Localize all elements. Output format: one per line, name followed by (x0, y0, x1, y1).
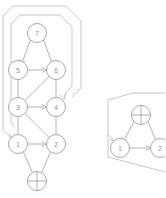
right-graph-regions (108, 93, 165, 172)
node-3-label: 3 (16, 104, 20, 111)
node-7-label: 7 (35, 30, 39, 37)
node-5-label: 5 (16, 67, 20, 74)
node-4-label: 4 (54, 104, 58, 111)
right-node-2[interactable]: 2 (151, 139, 166, 158)
edge-right-top-1 (125, 122, 135, 140)
diagram-canvas: 7 5 6 3 4 1 2 (0, 0, 165, 198)
figure-root: 7 5 6 3 4 1 2 (0, 0, 165, 198)
right-graph-nodes: 1 2 (111, 106, 166, 158)
node-1-label: 1 (16, 141, 20, 148)
right-node-1-label: 1 (118, 145, 122, 152)
right-node-top-crossed-circle[interactable] (132, 106, 151, 125)
right-region-boundary (108, 93, 165, 172)
right-node-1[interactable]: 1 (111, 139, 130, 158)
node-2[interactable]: 2 (47, 135, 66, 154)
node-bottom-crossed-circle[interactable] (28, 172, 47, 191)
edge-3-2 (25, 114, 49, 138)
right-node-2-label: 2 (158, 145, 162, 152)
node-7[interactable]: 7 (28, 24, 47, 43)
node-5[interactable]: 5 (9, 61, 28, 80)
edge-3-6 (25, 77, 49, 101)
edge-right-top-2 (148, 122, 156, 140)
edge-2-bottom (42, 152, 51, 173)
node-4[interactable]: 4 (47, 98, 66, 117)
edge-7-6 (44, 40, 52, 62)
edge-7-5 (23, 40, 31, 62)
node-6[interactable]: 6 (47, 61, 66, 80)
inner-region-arrow (61, 94, 66, 100)
edge-1-bottom (24, 152, 33, 173)
node-2-label: 2 (54, 141, 58, 148)
node-6-label: 6 (54, 67, 58, 74)
node-1[interactable]: 1 (9, 135, 28, 154)
node-3[interactable]: 3 (9, 98, 28, 117)
